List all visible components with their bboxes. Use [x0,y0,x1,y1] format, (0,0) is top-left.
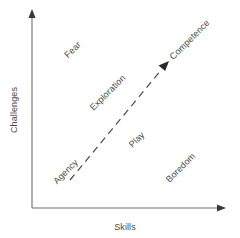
x-axis-label: Skills [114,223,136,232]
x-axis-arrowhead [217,204,226,211]
y-axis-arrowhead [28,9,35,18]
y-axis-label: Challenges [10,87,19,133]
diagram-canvas: Skills Challenges Fear Exploration Play … [0,0,240,238]
progression-arrowhead [159,61,170,71]
diagram-vector-layer [0,0,240,238]
